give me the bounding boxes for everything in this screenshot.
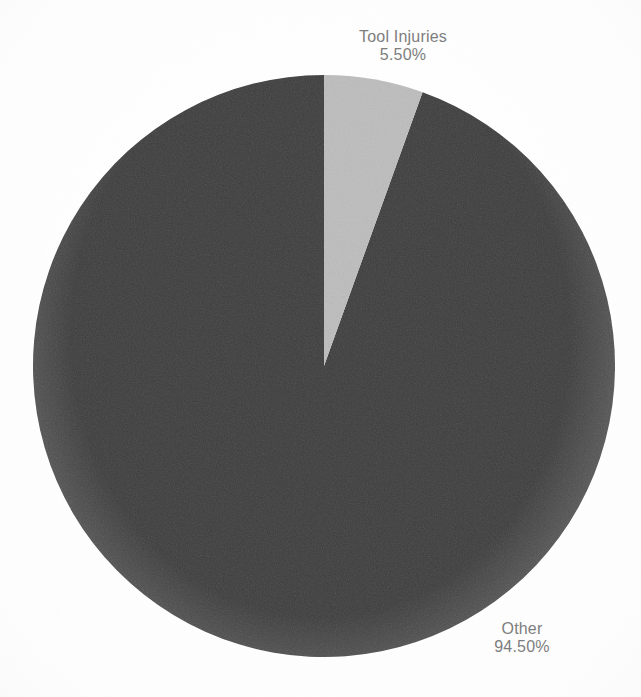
pie-chart-canvas	[0, 0, 641, 697]
pie-label-other-name: Other	[422, 620, 622, 638]
pie-label-tool-injuries: Tool Injuries 5.50%	[303, 28, 503, 64]
pie-chart: Tool Injuries 5.50% Other 94.50%	[0, 0, 641, 697]
pie-label-tool-injuries-name: Tool Injuries	[303, 28, 503, 46]
page-grain	[0, 0, 641, 697]
pie-label-other: Other 94.50%	[422, 620, 622, 656]
pie-label-tool-injuries-value: 5.50%	[303, 46, 503, 64]
pie-label-other-value: 94.50%	[422, 638, 622, 656]
